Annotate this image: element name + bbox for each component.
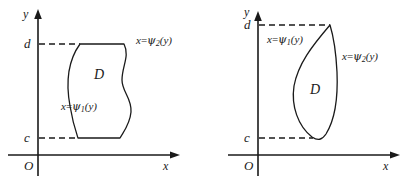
region-d-outline-left [68, 44, 131, 138]
curve-label-psi2-left: x=ψ2(y) [136, 35, 172, 46]
tick-label-c-left: c [24, 131, 30, 144]
curve-label-psi1-right-sub: 1 [287, 38, 291, 47]
region-label-left: D [94, 68, 104, 82]
y-axis-right [254, 11, 262, 176]
y-axis-left [34, 9, 42, 176]
curve-label-psi1-right-fn: ψ [278, 33, 287, 46]
origin-label-left: O [24, 159, 33, 172]
x-axis-left [8, 151, 180, 158]
x-axis-label-left: x [163, 160, 168, 172]
curve-label-psi1-left-fn: ψ [72, 100, 81, 113]
curve-label-psi2-right: x=ψ2(y) [342, 51, 378, 62]
curve-label-psi2-right-fn: ψ [353, 50, 362, 63]
y-axis-label-left: y [23, 8, 28, 20]
right-panel-drawing [206, 0, 412, 183]
figure-root: y x d c O D x=ψ2(y) x=ψ1(y) [0, 0, 412, 183]
origin-label-right: O [244, 159, 253, 172]
curve-label-psi1-right: x=ψ1(y) [267, 34, 303, 45]
diagram-panel-left: y x d c O D x=ψ2(y) x=ψ1(y) [0, 0, 206, 183]
curve-label-psi1-left: x=ψ1(y) [61, 101, 97, 112]
curve-label-psi2-right-sub: 2 [362, 55, 366, 64]
region-label-right: D [310, 83, 320, 97]
x-axis-label-right: x [383, 160, 388, 172]
x-axis-right [228, 151, 400, 158]
curve-label-psi2-left-arg: (y) [160, 34, 172, 46]
curve-label-psi2-left-fn: ψ [147, 34, 156, 47]
curve-label-psi1-right-arg: (y) [291, 33, 303, 45]
tick-label-d-left: d [24, 37, 31, 50]
curve-label-psi2-right-arg: (y) [366, 50, 378, 62]
tick-label-c-right: c [244, 131, 250, 144]
curve-label-psi2-left-sub: 2 [156, 39, 160, 48]
curve-label-psi1-left-arg: (y) [85, 100, 97, 112]
curve-label-psi1-left-sub: 1 [81, 105, 85, 114]
left-panel-drawing [0, 0, 206, 183]
diagram-panel-right: y x d c O D x=ψ1(y) x=ψ2(y) [206, 0, 412, 183]
tick-label-d-right: d [244, 18, 251, 31]
